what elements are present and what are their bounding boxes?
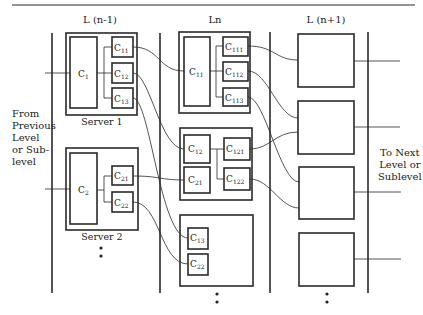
svg-text:C122: C122 xyxy=(226,174,245,185)
server-2 xyxy=(66,148,138,230)
next-level-boxes xyxy=(298,34,354,286)
server-hierarchy-diagram: L (n-1) Ln L (n+1) C1 C11 C12 C13 C2 C21… xyxy=(0,0,423,315)
svg-text:C21: C21 xyxy=(188,175,203,186)
next-box-3 xyxy=(299,167,354,219)
ln-box-3 xyxy=(180,215,253,286)
svg-text:C12: C12 xyxy=(188,144,203,155)
left-label-line: or Sub- xyxy=(12,144,56,156)
level-label-next: L (n+1) xyxy=(307,14,346,25)
svg-text:C111: C111 xyxy=(225,42,243,53)
svg-text:C11: C11 xyxy=(189,67,204,78)
svg-text:C22: C22 xyxy=(190,259,205,270)
left-label-line: Level xyxy=(12,132,56,144)
continuation-dots xyxy=(99,246,328,303)
svg-text:C1: C1 xyxy=(78,69,89,80)
svg-text:C112: C112 xyxy=(225,67,244,78)
server-2-label: Server 2 xyxy=(81,231,122,242)
right-side-label: To Next Level or Sublevel xyxy=(378,147,422,183)
connections-ln-to-next xyxy=(248,46,299,208)
left-label-line: Previous xyxy=(12,120,56,132)
level-label-current: Ln xyxy=(208,14,222,25)
svg-text:C21: C21 xyxy=(114,171,129,182)
right-label-line: To Next xyxy=(378,147,422,159)
svg-text:C2: C2 xyxy=(78,185,89,196)
svg-text:C13: C13 xyxy=(190,233,205,244)
next-box-2 xyxy=(298,101,354,154)
svg-text:C11: C11 xyxy=(114,43,129,54)
level-label-prev: L (n-1) xyxy=(83,14,117,25)
right-label-line: Level or xyxy=(378,159,422,171)
server-1-label: Server 1 xyxy=(81,116,122,127)
next-box-1 xyxy=(298,34,354,87)
left-side-label: From Previous Level or Sub- level xyxy=(12,108,56,168)
svg-text:C22: C22 xyxy=(114,198,129,209)
ln-box-2 xyxy=(180,128,252,200)
next-box-4 xyxy=(299,233,354,286)
right-label-line: Sublevel xyxy=(378,171,422,183)
left-label-line: From xyxy=(12,108,56,120)
svg-text:C12: C12 xyxy=(114,69,129,80)
svg-text:C113: C113 xyxy=(225,93,244,104)
left-label-line: level xyxy=(12,156,56,168)
svg-text:C121: C121 xyxy=(226,144,244,155)
svg-text:C13: C13 xyxy=(114,94,129,105)
